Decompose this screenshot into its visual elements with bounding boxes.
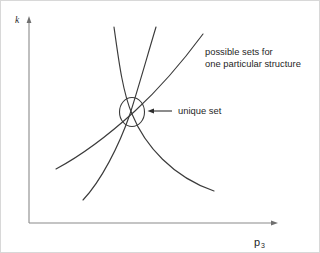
y-axis-label: k [15, 15, 20, 25]
curves-note: possible sets for one particular structu… [205, 46, 301, 69]
x-axis [29, 221, 278, 226]
unique-set-leader [148, 109, 173, 114]
figure-container: k p 3 possible sets for one particular s… [0, 0, 320, 253]
x-axis-label-subscript: 3 [261, 242, 265, 249]
x-axis-arrowhead [271, 221, 278, 226]
unique-set-arrowhead [148, 109, 155, 114]
diagram-canvas: k p 3 possible sets for one particular s… [1, 1, 320, 253]
curves-note-line-1: possible sets for [205, 46, 273, 57]
y-axis-arrowhead [27, 16, 32, 23]
x-axis-label: p 3 [254, 236, 265, 249]
curves-note-line-2: one particular structure [205, 58, 301, 69]
y-axis [27, 16, 32, 223]
x-axis-label-base: p [254, 236, 260, 248]
curve-shallow-rising [56, 34, 203, 169]
unique-set-label: unique set [178, 105, 222, 116]
unique-set-marker-ellipse [120, 98, 145, 127]
